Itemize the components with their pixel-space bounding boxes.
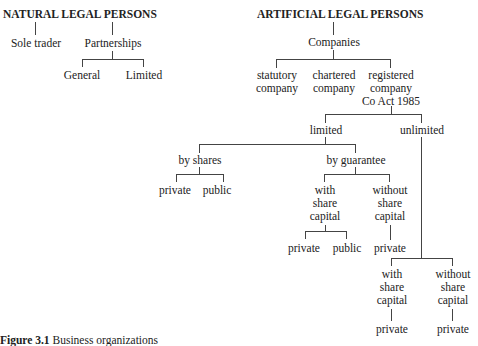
node-guarantee-with-private: private [288, 242, 320, 255]
connector-line [389, 174, 390, 182]
connector-line [325, 114, 326, 123]
connector-line [276, 59, 277, 68]
connector-line [223, 174, 224, 182]
node-guarantee-without-share-capital: without share capital [372, 184, 407, 223]
node-guarantee-without-private: private [374, 242, 406, 255]
node-partnerships: Partnerships [85, 37, 142, 50]
connector-line [452, 258, 453, 266]
node-companies: Companies [308, 36, 360, 49]
connector-line [391, 258, 453, 259]
connector-line [452, 309, 453, 321]
connector-line [333, 50, 334, 59]
connector-line [112, 22, 113, 35]
figure-label: Figure 3.1 [0, 334, 50, 346]
connector-line [324, 174, 325, 182]
node-statutory-company: statutory company [256, 69, 298, 95]
connector-line [391, 309, 392, 321]
connector-line [176, 174, 177, 182]
node-sole-trader: Sole trader [11, 37, 61, 50]
node-by-guarantee: by guarantee [326, 154, 385, 167]
natural-legal-persons-heading: NATURAL LEGAL PERSONS [3, 8, 157, 21]
connector-line [305, 231, 306, 239]
connector-line [421, 137, 422, 258]
connector-line [199, 167, 200, 174]
connector-line [276, 59, 391, 60]
node-unlimited-with-private: private [376, 323, 408, 336]
connector-line [199, 144, 200, 153]
connector-line [346, 231, 347, 239]
connector-line [325, 137, 326, 144]
node-chartered-company: chartered company [313, 69, 356, 95]
connector-line [333, 22, 334, 35]
connector-line [305, 231, 347, 232]
node-limited-partnership: Limited [126, 69, 162, 82]
connector-line [390, 225, 391, 240]
node-guarantee-with-public: public [333, 242, 362, 255]
connector-line [112, 51, 113, 59]
connector-line [82, 59, 143, 60]
connector-line [421, 114, 422, 123]
connector-line [355, 144, 356, 153]
node-unlimited-without-private: private [437, 323, 469, 336]
figure-caption-text: Business organizations [53, 334, 159, 346]
node-unlimited-without-share-capital: without share capital [435, 268, 470, 307]
connector-line [176, 174, 224, 175]
connector-line [35, 22, 36, 35]
node-limited: limited [310, 124, 343, 137]
figure-caption: Figure 3.1 Business organizations [0, 334, 158, 346]
node-registered-company: registered company Co Act 1985 [362, 69, 420, 108]
connector-line [391, 106, 392, 114]
node-unlimited-with-share-capital: with share capital [377, 268, 408, 307]
artificial-legal-persons-heading: ARTIFICIAL LEGAL PERSONS [257, 8, 423, 21]
node-shares-private: private [159, 184, 191, 197]
connector-line [355, 167, 356, 174]
node-shares-public: public [203, 184, 232, 197]
node-by-shares: by shares [178, 154, 221, 167]
node-guarantee-with-share-capital: with share capital [310, 184, 341, 223]
node-general: General [64, 69, 100, 82]
connector-line [325, 114, 422, 115]
connector-line [390, 59, 391, 68]
connector-line [143, 59, 144, 67]
node-unlimited: unlimited [400, 124, 444, 137]
connector-line [199, 144, 356, 145]
connector-line [82, 59, 83, 67]
connector-line [391, 258, 392, 266]
connector-line [324, 174, 390, 175]
